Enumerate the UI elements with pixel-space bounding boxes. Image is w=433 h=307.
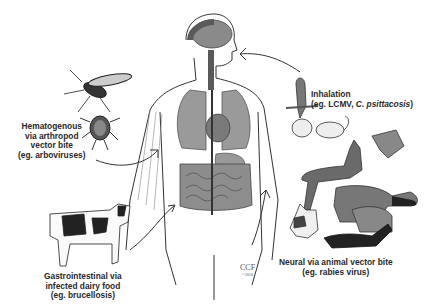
label-text: )	[410, 99, 413, 109]
intestines-organ	[180, 164, 252, 210]
label-gastrointestinal: Gastrointestinal via infected dairy food…	[44, 272, 122, 301]
cat-illustration	[290, 204, 318, 238]
heart-organ	[206, 114, 230, 142]
credit-name: CCF	[240, 264, 255, 272]
rodents-illustration	[292, 116, 349, 138]
bat-illustration	[372, 130, 404, 158]
mosquito-illustration	[64, 70, 133, 112]
label-italic-text: C. psittacosis	[356, 99, 410, 109]
label-neural: Neural via animal vector bite (eg. rabie…	[279, 258, 393, 277]
label-hematogenous: Hematogenous via arthropod vector bite (…	[18, 122, 86, 160]
label-text: (eg. LCMV,	[311, 99, 356, 109]
credit-mark: CCF ©2010	[240, 264, 255, 277]
label-line: (eg. LCMV, C. psittacosis)	[311, 100, 413, 110]
lungs-organ	[177, 90, 206, 150]
label-inhalation: Inhalation (eg. LCMV, C. psittacosis)	[311, 90, 413, 109]
label-line: (eg. rabies virus)	[279, 268, 393, 278]
cow-illustration	[50, 204, 130, 266]
tick-illustration	[80, 116, 120, 150]
label-line: (eg. arboviruses)	[18, 151, 86, 161]
human-figure	[126, 14, 278, 300]
credit-year: ©2010	[240, 272, 255, 277]
label-line: (eg. brucellosis)	[44, 291, 122, 301]
